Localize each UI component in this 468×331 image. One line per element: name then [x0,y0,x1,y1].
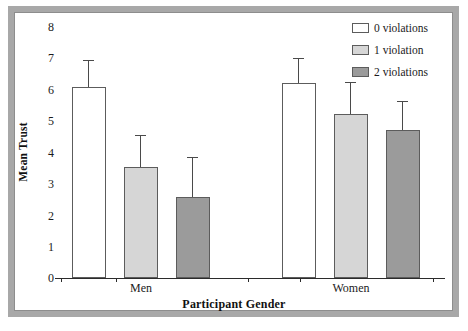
bar-women-0-violations [282,83,316,278]
x-axis-tick-women-end [433,278,434,282]
errorbar-cap-men-0-violations [83,60,94,61]
y-tick-label-6: 6 [32,84,54,96]
y-tick-label-5: 5 [32,115,54,127]
x-tick-label-women: Women [316,281,386,296]
y-axis-title: Mean Trust [17,107,29,197]
y-tick-label-4: 4 [32,147,54,159]
chart-legend: 0 violations 1 violation 2 violations [352,18,444,84]
y-tick-label-1: 1 [32,241,54,253]
errorbar-cap-men-2-violations [187,157,198,158]
legend-item-2-violations: 2 violations [352,62,444,81]
plot-area: 8 7 6 5 4 3 2 1 0 Mean Trust [0,0,468,331]
bar-women-2-violations [386,130,420,278]
x-tick-label-men: Men [106,281,176,296]
legend-swatch-white [352,23,369,33]
bar-men-2-violations [176,197,210,278]
errorbar-cap-women-2-violations [397,101,408,102]
errorbar-cap-women-0-violations [293,58,304,59]
x-axis-title: Participant Gender [0,297,468,312]
y-tick-label-7: 7 [32,52,54,64]
x-axis-line [60,278,445,279]
y-axis-tick-0 [55,278,60,279]
errorbar-cap-men-1-violation [135,135,146,136]
errorbar-line-men-0-violations [88,60,89,87]
legend-swatch-light-gray [352,45,369,55]
errorbar-line-men-2-violations [192,157,193,197]
errorbar-line-men-1-violation [140,135,141,167]
legend-label-2-violations: 2 violations [374,66,428,78]
legend-label-1-violation: 1 violation [374,44,424,56]
legend-label-0-violations: 0 violations [374,22,428,34]
x-axis-tick-women-start [300,278,301,282]
y-tick-label-0: 0 [32,272,54,284]
bar-men-1-violation [124,167,158,278]
bar-men-0-violations [72,87,106,278]
legend-item-1-violation: 1 violation [352,40,444,59]
errorbar-line-women-0-violations [298,58,299,83]
bar-women-1-violation [334,114,368,278]
errorbar-line-women-2-violations [402,101,403,130]
x-axis-tick-men-end [248,278,249,282]
y-tick-label-8: 8 [32,21,54,33]
y-tick-label-2: 2 [32,210,54,222]
y-tick-label-3: 3 [32,178,54,190]
errorbar-line-women-1-violation [350,82,351,114]
figure-container: 8 7 6 5 4 3 2 1 0 Mean Trust [0,0,468,331]
x-axis-tick-left-edge [61,278,62,282]
legend-item-0-violations: 0 violations [352,18,444,37]
legend-swatch-dark-gray [352,67,369,77]
